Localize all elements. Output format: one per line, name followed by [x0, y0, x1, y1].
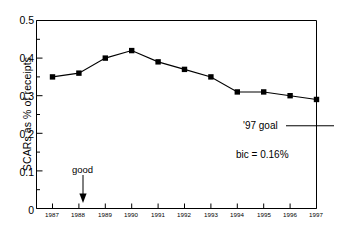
y-tick-label: 0.3	[8, 91, 34, 102]
data-point-marker	[129, 48, 134, 53]
good-annotation-label: good	[72, 164, 93, 175]
data-point-marker	[155, 59, 160, 64]
y-axis-minor-ticks	[37, 39, 41, 189]
data-point-marker	[50, 74, 55, 79]
good-arrow-icon	[79, 175, 86, 203]
data-point-marker	[261, 89, 266, 94]
bic-annotation-label: bic = 0.16%	[236, 149, 289, 160]
axis-frame	[37, 21, 317, 209]
data-point-marker	[76, 70, 81, 75]
plot-area	[0, 0, 340, 236]
goal-annotation-label: '97 goal	[243, 120, 278, 131]
y-tick-label: 0.4	[8, 53, 34, 64]
data-point-marker	[235, 89, 240, 94]
x-tick-label: 1994	[222, 211, 252, 218]
y-axis-tick-labels: 0.5 0.4 0.3 0.2 0.1 0	[4, 0, 34, 236]
data-point-marker	[182, 67, 187, 72]
x-tick-label: 1997	[301, 211, 331, 218]
y-tick-label: 0.2	[8, 129, 34, 140]
y-tick-label: 0.5	[8, 15, 34, 26]
data-point-marker	[103, 55, 108, 60]
x-tick-label: 1990	[116, 211, 146, 218]
x-axis-tick-labels: 1987 1988 1989 1990 1991 1992 1993 1994 …	[0, 211, 340, 225]
data-point-marker	[314, 97, 319, 102]
data-point-marker	[287, 93, 292, 98]
x-tick-label: 1988	[63, 211, 93, 218]
chart-figure: SCARs as % of receipts 0.5 0.4 0.3 0.2 0…	[0, 0, 340, 236]
data-series-line	[53, 51, 317, 100]
x-tick-label: 1992	[169, 211, 199, 218]
y-tick-label: 0.1	[8, 167, 34, 178]
data-point-marker	[208, 74, 213, 79]
x-axis-ticks	[53, 204, 317, 209]
